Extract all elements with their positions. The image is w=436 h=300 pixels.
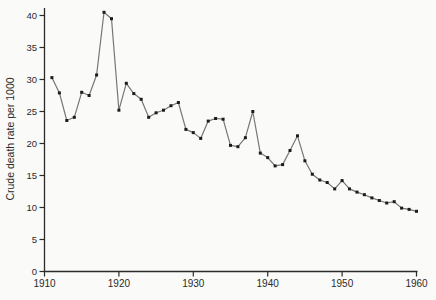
y-tick-label: 15 [26,170,37,181]
y-tick-label: 35 [26,42,37,53]
plot-area: 0510152025303540191019201930194019501960 [26,8,428,289]
data-point-1928 [177,101,180,104]
data-point-1943 [289,149,292,152]
x-tick-label: 1920 [108,278,131,289]
data-point-1921 [125,82,128,85]
data-point-1918 [103,11,106,14]
data-point-1959 [408,208,411,211]
y-tick-label: 0 [32,266,37,277]
data-point-1948 [326,181,329,184]
x-tick-label: 1950 [331,278,354,289]
data-point-1925 [155,111,158,114]
y-axis-title: Crude death rate per 1000 [4,77,16,200]
x-tick-label: 1910 [33,278,56,289]
data-point-1913 [65,119,68,122]
data-point-1930 [192,131,195,134]
data-point-1926 [162,109,165,112]
data-point-1919 [110,17,113,20]
x-tick-label: 1930 [182,278,205,289]
data-line [52,12,417,211]
data-point-1940 [266,156,269,159]
data-point-1920 [117,109,120,112]
y-tick-label: 5 [32,234,37,245]
data-point-1934 [222,118,225,121]
axes-lines [45,8,418,272]
data-point-1916 [88,94,91,97]
data-point-1938 [251,110,254,113]
data-point-1942 [281,163,284,166]
data-point-1914 [73,116,76,119]
y-tick-label: 10 [26,202,37,213]
data-point-1939 [259,152,262,155]
chart-canvas: 0510152025303540191019201930194019501960… [0,0,436,300]
data-point-1947 [318,179,321,182]
data-point-1936 [236,145,239,148]
y-tick-label: 25 [26,106,37,117]
data-point-1911 [50,76,53,79]
data-point-1937 [244,136,247,139]
data-point-1956 [385,202,388,205]
data-point-1958 [400,207,403,210]
data-point-1960 [415,210,418,213]
data-point-1923 [140,98,143,101]
y-tick-label: 30 [26,74,37,85]
data-point-1924 [147,116,150,119]
data-point-1927 [170,104,173,107]
data-point-1946 [311,173,314,176]
data-point-1931 [199,137,202,140]
data-point-1955 [378,199,381,202]
y-tick-label: 20 [26,138,37,149]
data-point-1915 [80,91,83,94]
data-point-1922 [132,92,135,95]
data-point-1949 [333,187,336,190]
x-tick-label: 1940 [257,278,280,289]
data-point-1945 [303,159,306,162]
data-point-1951 [348,187,351,190]
data-point-1950 [341,179,344,182]
data-point-1954 [370,196,373,199]
y-tick-label: 40 [26,10,37,21]
data-point-1917 [95,74,98,77]
data-point-1933 [214,117,217,120]
data-point-1932 [207,120,210,123]
data-point-1952 [356,191,359,194]
data-point-1944 [296,134,299,137]
data-point-1912 [58,91,61,94]
data-point-1941 [274,164,277,167]
data-point-1953 [363,193,366,196]
chart-figure: 0510152025303540191019201930194019501960… [0,0,436,300]
data-point-1929 [184,128,187,131]
data-point-1935 [229,144,232,147]
data-point-1957 [393,200,396,203]
x-tick-label: 1960 [405,278,428,289]
